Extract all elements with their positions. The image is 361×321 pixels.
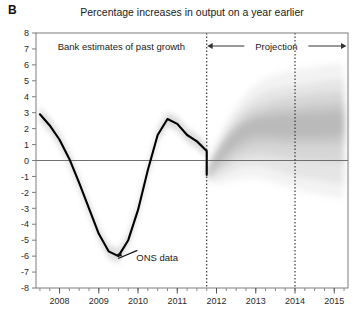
plot-area	[36, 33, 348, 288]
svg-text:-7: -7	[21, 267, 29, 277]
svg-text:-5: -5	[21, 235, 29, 245]
svg-text:4: 4	[24, 92, 29, 102]
svg-text:-1: -1	[21, 172, 29, 182]
svg-text:1: 1	[24, 140, 29, 150]
x-axis-ticks: 20082009201020112012201320142015	[40, 288, 344, 306]
svg-text:2012: 2012	[207, 296, 227, 306]
svg-text:5: 5	[24, 76, 29, 86]
past-growth-label: Bank estimates of past growth	[58, 41, 185, 52]
svg-text:7: 7	[24, 44, 29, 54]
svg-text:2015: 2015	[324, 296, 344, 306]
svg-text:-3: -3	[21, 204, 29, 214]
svg-text:2008: 2008	[50, 296, 70, 306]
projection-label: Projection	[255, 41, 297, 52]
svg-text:2: 2	[24, 124, 29, 134]
svg-text:0: 0	[24, 156, 29, 166]
ons-data-label: ONS data	[136, 252, 178, 263]
y-axis-ticks: 876543210-1-2-3-4-5-6-7-8	[21, 28, 36, 293]
svg-text:6: 6	[24, 60, 29, 70]
svg-text:2009: 2009	[89, 296, 109, 306]
svg-text:-6: -6	[21, 251, 29, 261]
svg-text:-4: -4	[21, 219, 29, 229]
svg-text:-8: -8	[21, 283, 29, 293]
svg-text:2013: 2013	[246, 296, 266, 306]
fan-chart: 876543210-1-2-3-4-5-6-7-8 20082009201020…	[0, 0, 361, 321]
svg-text:2010: 2010	[128, 296, 148, 306]
svg-text:2011: 2011	[168, 296, 187, 306]
svg-text:-2: -2	[21, 188, 29, 198]
svg-text:3: 3	[24, 108, 29, 118]
svg-text:2014: 2014	[285, 296, 305, 306]
figure-panel-b: B Percentage increases in output on a ye…	[0, 0, 361, 321]
svg-text:8: 8	[24, 28, 29, 38]
